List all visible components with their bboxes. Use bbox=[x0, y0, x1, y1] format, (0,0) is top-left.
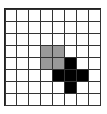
grid-cell-empty bbox=[88, 93, 101, 106]
pixel-grid bbox=[4, 8, 101, 106]
